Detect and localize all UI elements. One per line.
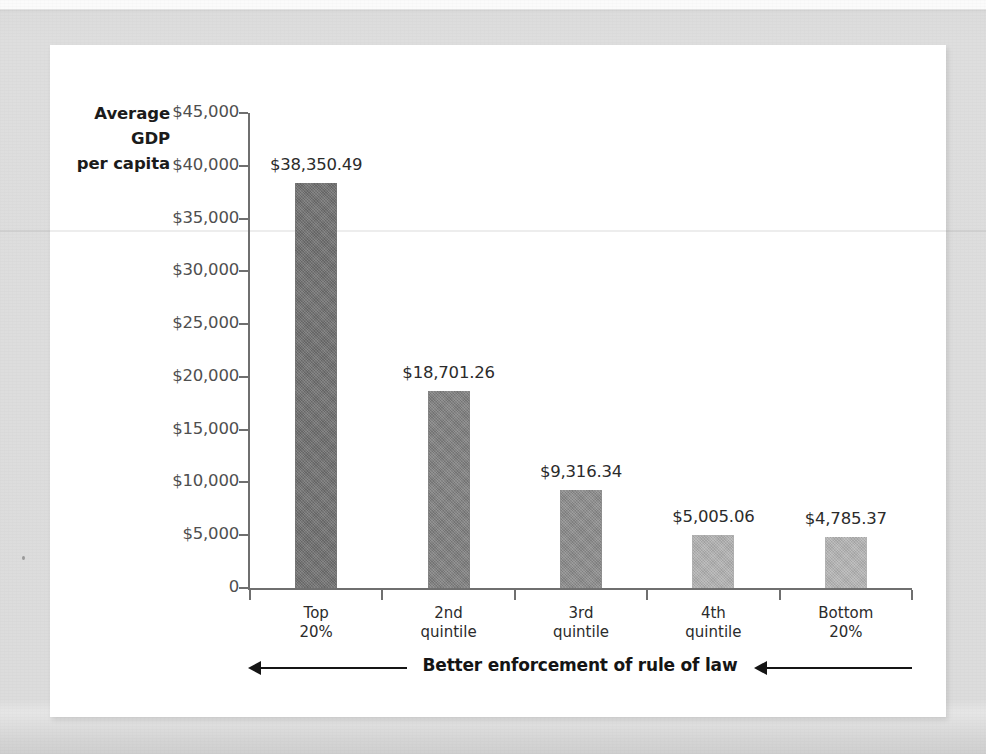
y-axis-tick-label: $40,000 (143, 155, 239, 174)
y-axis-tick-label: $30,000 (143, 260, 239, 279)
y-axis-tick-label: $25,000 (143, 313, 239, 332)
bar-value-label: $38,350.49 (226, 155, 406, 174)
y-axis-tick (239, 218, 248, 220)
x-axis-category-label-line: quintile (379, 623, 519, 642)
y-axis-tick-label: $35,000 (143, 208, 239, 227)
bar-chart: Average GDP per capita $45,000$40,000$35… (0, 0, 986, 754)
y-axis-line (248, 113, 250, 589)
x-axis-category-label: Bottom20% (776, 604, 916, 642)
bar (428, 391, 470, 588)
y-axis-tick-labels: $45,000$40,000$35,000$30,000$25,000$20,0… (84, 0, 239, 754)
x-axis-category-label-line: 4th (643, 604, 783, 623)
y-axis-tick-label: $5,000 (143, 524, 239, 543)
y-axis-tick-label: $10,000 (143, 471, 239, 490)
bar (560, 490, 602, 588)
y-axis-tick (239, 270, 248, 272)
bar (692, 535, 734, 588)
x-axis-category-label-line: Bottom (776, 604, 916, 623)
y-axis-tick (239, 587, 248, 589)
y-axis-tick (239, 429, 248, 431)
y-axis-tick-label: $20,000 (143, 366, 239, 385)
bar-value-label: $18,701.26 (359, 363, 539, 382)
x-axis-category-label: 4thquintile (643, 604, 783, 642)
y-axis-tick (239, 323, 248, 325)
x-axis-category-label-line: 20% (246, 623, 386, 642)
x-axis-category-label-line: quintile (511, 623, 651, 642)
x-axis-line (248, 588, 912, 590)
x-axis-category-label-line: 2nd (379, 604, 519, 623)
x-axis-category-label: Top20% (246, 604, 386, 642)
x-axis-category-label-line: quintile (643, 623, 783, 642)
x-axis-category-label-line: 3rd (511, 604, 651, 623)
y-axis-tick (239, 376, 248, 378)
left-arrow-line (260, 667, 407, 669)
y-axis-tick (239, 112, 248, 114)
x-axis-category-label: 2ndquintile (379, 604, 519, 642)
y-axis-tick-label: $45,000 (143, 102, 239, 121)
y-axis-tick (239, 481, 248, 483)
x-axis-tick (514, 590, 516, 600)
rule-of-law-label: Better enforcement of rule of law (423, 655, 738, 675)
x-axis-category-label-line: Top (246, 604, 386, 623)
x-axis-tick (779, 590, 781, 600)
x-axis-tick (381, 590, 383, 600)
bar (295, 183, 337, 588)
y-axis-tick (239, 534, 248, 536)
rule-of-law-annotation: Better enforcement of rule of law (248, 655, 912, 681)
x-axis-tick (249, 590, 251, 600)
right-arrow-line (766, 667, 913, 669)
x-axis-tick (911, 590, 913, 600)
y-axis-tick-label: 0 (143, 577, 239, 596)
bar (825, 537, 867, 588)
x-axis-category-label: 3rdquintile (511, 604, 651, 642)
x-axis-tick (646, 590, 648, 600)
bar-value-label: $9,316.34 (491, 462, 671, 481)
x-axis-category-label-line: 20% (776, 623, 916, 642)
y-axis-tick-label: $15,000 (143, 419, 239, 438)
bar-value-label: $4,785.37 (756, 509, 936, 528)
